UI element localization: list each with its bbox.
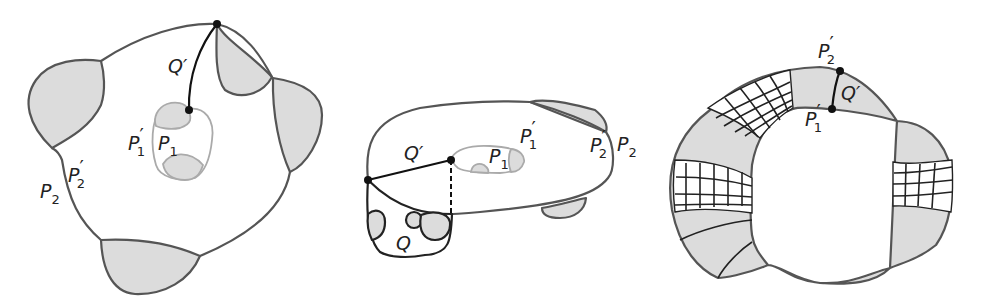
label-p2-prime: P′2 [818, 32, 835, 67]
hole-lobe-right [509, 149, 524, 172]
label-p1-prime: P′1 [520, 117, 537, 152]
lobe-right [273, 78, 322, 172]
label-p2-prime: P′2 [68, 156, 85, 191]
label-p2: P2 [40, 180, 60, 207]
label-q: Q [396, 232, 411, 254]
panel-2: Q′ Q P1 P′1 P′2 P2 [364, 101, 637, 257]
point-left [364, 176, 372, 184]
figure-canvas: Q′ P′1 P1 P2 P′2 Q′ Q P1 P′1 P′2 P2 [0, 0, 988, 302]
point-top [836, 67, 844, 75]
point-top [213, 20, 221, 28]
lobe-bottom [101, 240, 200, 294]
lobe-top-right [216, 24, 272, 95]
hole-lobe-top [155, 103, 190, 129]
label-p1-prime: P′1 [128, 124, 145, 159]
label-q-prime: Q′ [841, 82, 861, 104]
q-blob-right [420, 212, 450, 240]
label-p2-prime: P′2 [590, 126, 607, 161]
point-inner [828, 105, 836, 113]
point-hole [185, 106, 193, 114]
label-q-prime: Q′ [404, 142, 424, 164]
label-p2: P2 [617, 133, 637, 160]
panel-3: P′2 Q′ P′1 [670, 32, 953, 284]
lobe-left [29, 60, 104, 148]
point-hole [447, 156, 455, 164]
panel-1: Q′ P′1 P1 P2 P′2 [29, 20, 322, 294]
label-q-prime: Q′ [168, 55, 188, 77]
q-prime-path [189, 24, 217, 110]
